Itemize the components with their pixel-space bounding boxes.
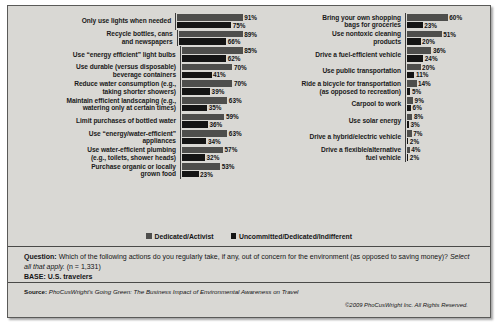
bar-rect (182, 163, 220, 170)
category-label: Use “energy/water-efficient” appliances (8, 130, 180, 145)
legend-item-uncommitted: Uncommitted/Dedicated/Indifferent (231, 233, 352, 240)
bar-uncommitted: 62% (182, 55, 257, 62)
bar-rect (407, 97, 413, 104)
bar-value-label: 75% (233, 22, 246, 29)
bar-dedicated: 53% (182, 163, 257, 170)
chart-row: Use nontoxic cleaning products51%20% (257, 30, 490, 47)
bar-rect (407, 64, 421, 71)
source-block: Source: PhoCusWright's Going Green: The … (8, 282, 490, 317)
bar-value-label: 41% (213, 71, 226, 78)
category-label: Use durable (versus disposable) beverage… (8, 63, 180, 78)
bar-value-label: 24% (425, 55, 438, 62)
bar-rect (182, 64, 232, 71)
bar-rect (182, 130, 227, 137)
bar-group: 14%5% (405, 79, 490, 96)
category-label: Use nontoxic cleaning products (257, 30, 405, 45)
category-label: Purchase organic or locally grown food (8, 163, 180, 178)
question-label: Question: (24, 253, 57, 260)
bar-value-label: 2% (410, 154, 419, 161)
bar-value-label: 14% (418, 80, 431, 87)
bar-dedicated: 57% (182, 147, 257, 154)
chart-row: Purchase organic or locally grown food53… (8, 162, 257, 179)
category-label: Drive a hybrid/electric vehicle (257, 133, 405, 141)
chart-row: Carpool to work9%6% (257, 96, 490, 113)
bar-value-label: 2% (410, 138, 419, 145)
bar-value-label: 59% (226, 113, 239, 120)
bar-rect (407, 88, 410, 95)
bar-uncommitted: 32% (182, 154, 257, 161)
bar-value-label: 36% (433, 47, 446, 54)
bar-group: 70%39% (180, 79, 257, 96)
bar-dedicated: 51% (407, 31, 490, 38)
bar-group: 85%62% (180, 46, 257, 63)
question-text: Which of the following actions do you re… (59, 253, 448, 260)
bar-rect (179, 38, 227, 45)
bar-dedicated: 63% (182, 97, 257, 104)
chart-plot-area: Only use lights when needed91%75%Recycle… (8, 6, 490, 228)
category-label: Bring your own shopping bags for groceri… (257, 14, 405, 29)
bar-uncommitted: 75% (177, 22, 257, 29)
bar-rect (407, 22, 423, 29)
category-label: Maintain efficient landscaping (e.g., wa… (8, 97, 180, 112)
bar-dedicated: 70% (182, 80, 257, 87)
bar-value-label: 23% (200, 171, 213, 178)
question-n: (n = 1,331) (67, 263, 101, 270)
bar-value-label: 9% (415, 97, 424, 104)
chart-screenshot: Only use lights when needed91%75%Recycle… (0, 0, 498, 330)
bar-rect (179, 31, 243, 38)
category-label: Reduce water consumption (e.g., taking s… (8, 80, 180, 95)
base-line: BASE: U.S. travelers (24, 272, 474, 283)
bar-value-label: 57% (225, 146, 238, 153)
bar-value-label: 4% (411, 146, 420, 153)
category-label: Use public transportation (257, 67, 405, 75)
legend-item-dedicated: Dedicated/Activist (146, 233, 213, 240)
bar-value-label: 11% (416, 71, 428, 78)
chart-row: Ride a bicycle for transportation (as op… (257, 79, 490, 96)
bar-rect (182, 97, 227, 104)
bar-rect (177, 14, 243, 21)
bar-value-label: 39% (212, 88, 225, 95)
bar-value-label: 60% (449, 14, 462, 21)
copyright-notice: ©2009 PhoCusWright Inc. All Rights Reser… (24, 302, 474, 308)
bar-value-label: 3% (411, 121, 420, 128)
bar-value-label: 53% (222, 163, 235, 170)
bar-dedicated: 36% (407, 47, 490, 54)
legend-label: Dedicated/Activist (155, 233, 214, 240)
bar-value-label: 70% (234, 80, 247, 87)
bar-dedicated: 9% (407, 97, 490, 104)
bar-rect (407, 147, 410, 154)
bar-group: 59%36% (180, 112, 257, 129)
bar-dedicated: 14% (407, 80, 490, 87)
source-text: PhoCusWright's Going Green: The Business… (49, 288, 299, 295)
bar-rect (182, 80, 232, 87)
bar-dedicated: 85% (182, 47, 257, 54)
chart-row: Limit purchases of bottled water59%36% (8, 112, 257, 129)
bar-rect (407, 105, 411, 112)
bar-value-label: 70% (234, 64, 247, 71)
chart-row: Maintain efficient landscaping (e.g., wa… (8, 96, 257, 113)
bar-dedicated: 59% (182, 114, 257, 121)
bar-group: 70%41% (180, 63, 257, 80)
chart-row: Drive a flexible/alternative fuel vehicl… (257, 146, 490, 163)
chart-row: Only use lights when needed91%75% (8, 13, 257, 30)
bar-rect (407, 154, 408, 161)
bar-group: 89%66% (177, 30, 257, 47)
bar-group: 53%23% (180, 162, 257, 179)
category-label: Only use lights when needed (8, 17, 175, 25)
bar-value-label: 62% (228, 55, 241, 62)
bar-rect (177, 22, 231, 29)
bar-dedicated: 8% (407, 114, 490, 121)
chart-row: Use public transportation20%11% (257, 63, 490, 80)
base-value: U.S. travelers (48, 273, 93, 280)
chart-row: Drive a fuel-efficient vehicle36%24% (257, 46, 490, 63)
bar-value-label: 63% (229, 130, 242, 137)
bar-rect (182, 114, 224, 121)
bar-value-label: 20% (422, 64, 435, 71)
bar-group: 9%6% (405, 96, 490, 113)
bar-uncommitted: 2% (407, 138, 490, 145)
bar-value-label: 51% (443, 31, 456, 38)
source-line: Source: PhoCusWright's Going Green: The … (24, 288, 474, 295)
bar-uncommitted: 23% (182, 171, 257, 178)
bar-rect (407, 31, 442, 38)
bar-group: 7%2% (405, 129, 490, 146)
